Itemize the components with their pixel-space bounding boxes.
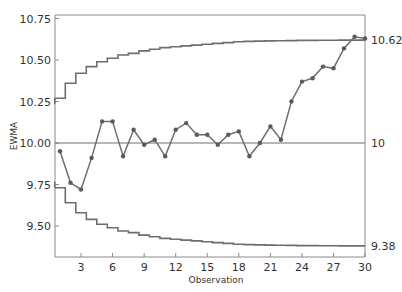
x-tick-label: 12 bbox=[169, 261, 183, 274]
ewma-point bbox=[331, 66, 335, 70]
ewma-point bbox=[142, 143, 146, 147]
ewma-point bbox=[89, 156, 93, 160]
ewma-control-chart: 9.509.7510.0010.2510.5010.75369121518212… bbox=[0, 0, 402, 292]
ewma-point bbox=[363, 36, 367, 40]
ewma-point bbox=[174, 128, 178, 132]
x-axis-label: Observation bbox=[189, 275, 244, 285]
ewma-point bbox=[110, 119, 114, 123]
ewma-point bbox=[68, 181, 72, 185]
ewma-point bbox=[279, 138, 283, 142]
ewma-point bbox=[79, 187, 83, 191]
x-tick-label: 6 bbox=[109, 261, 116, 274]
ewma-point bbox=[268, 124, 272, 128]
y-tick-label: 10.00 bbox=[20, 137, 52, 150]
ewma-point bbox=[352, 35, 356, 39]
chart-canvas: 9.509.7510.0010.2510.5010.75369121518212… bbox=[0, 0, 402, 292]
labels: ObservationEWMA10.62109.38 bbox=[9, 34, 402, 285]
ewma-point bbox=[289, 99, 293, 103]
ewma-point bbox=[58, 149, 62, 153]
y-tick-label: 9.50 bbox=[27, 220, 52, 233]
x-tick-label: 18 bbox=[232, 261, 246, 274]
lcl-value-label: 9.38 bbox=[371, 240, 396, 253]
ewma-point bbox=[310, 76, 314, 80]
ewma-point bbox=[153, 138, 157, 142]
x-tick-label: 30 bbox=[358, 261, 372, 274]
ewma-point bbox=[247, 154, 251, 158]
ewma-point bbox=[184, 121, 188, 125]
ewma-point bbox=[226, 133, 230, 137]
ewma-point bbox=[100, 119, 104, 123]
x-tick-label: 3 bbox=[78, 261, 85, 274]
y-tick-label: 9.75 bbox=[27, 179, 52, 192]
x-tick-label: 24 bbox=[295, 261, 309, 274]
y-tick-label: 10.25 bbox=[20, 96, 52, 109]
ewma-point bbox=[121, 154, 125, 158]
x-tick-label: 9 bbox=[141, 261, 148, 274]
y-axis-label: EWMA bbox=[9, 121, 19, 150]
x-tick-label: 21 bbox=[263, 261, 277, 274]
ewma-point bbox=[258, 141, 262, 145]
ewma-point bbox=[321, 64, 325, 68]
ewma-point bbox=[237, 129, 241, 133]
ewma-point bbox=[300, 79, 304, 83]
ewma-point bbox=[216, 143, 220, 147]
y-tick-label: 10.50 bbox=[20, 54, 52, 67]
ewma-point bbox=[195, 133, 199, 137]
center-value-label: 10 bbox=[371, 137, 385, 150]
ewma-point bbox=[131, 128, 135, 132]
ewma-point bbox=[163, 154, 167, 158]
y-tick-label: 10.75 bbox=[20, 13, 52, 26]
lcl-step-line bbox=[55, 188, 365, 246]
ucl-step-line bbox=[55, 40, 365, 98]
ewma-point bbox=[205, 133, 209, 137]
x-tick-label: 27 bbox=[327, 261, 341, 274]
ewma-line bbox=[60, 37, 365, 190]
ucl-value-label: 10.62 bbox=[371, 34, 402, 47]
ewma-series bbox=[58, 35, 368, 192]
x-tick-label: 15 bbox=[200, 261, 214, 274]
ewma-point bbox=[342, 46, 346, 50]
